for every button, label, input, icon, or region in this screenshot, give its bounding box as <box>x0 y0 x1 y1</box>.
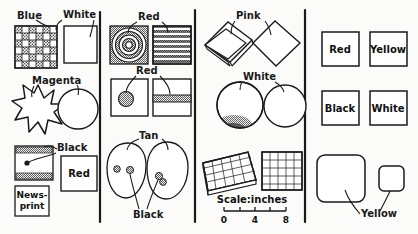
black-bar-target <box>15 146 53 180</box>
label-tan: Tan <box>139 130 158 141</box>
scale-caption: Scale:inches <box>217 194 287 205</box>
red-rings-target <box>110 26 148 64</box>
label-black-seeds: Black <box>133 209 164 220</box>
swatch-yellow: Yellow <box>369 32 407 66</box>
swatch-yellow-label: Yellow <box>369 44 406 55</box>
white-square-target <box>64 26 97 63</box>
label-white-sphere: White <box>243 71 276 82</box>
scale-tick-4: 4 <box>252 215 258 225</box>
figure-svg: Blue White Magenta Black News- print <box>0 0 418 234</box>
swatch-red-label: Red <box>329 44 351 55</box>
red-label: Red <box>68 168 90 179</box>
blue-checkerboard-target <box>15 26 57 68</box>
newsprint-swatch: News- print <box>15 186 49 216</box>
swatch-red: Red <box>322 32 359 66</box>
white-sphere-plain <box>264 85 306 127</box>
red-stripes-target <box>153 26 191 64</box>
red-band-square-target <box>153 79 191 116</box>
yellow-small-tile <box>379 166 404 191</box>
swatch-white: White <box>370 91 407 125</box>
newsprint-label-line2: print <box>20 201 45 211</box>
label-magenta: Magenta <box>32 75 81 86</box>
scale-tick-8: 8 <box>283 215 289 225</box>
grid-plate-flat <box>262 152 302 190</box>
label-pink: Pink <box>236 10 261 21</box>
scale-tick-0: 0 <box>221 215 227 225</box>
red-swatch: Red <box>61 156 97 191</box>
newsprint-label-line1: News- <box>16 190 47 200</box>
swatch-white-label: White <box>371 103 404 114</box>
label-yellow: Yellow <box>360 208 397 219</box>
label-red-rings: Red <box>138 11 160 22</box>
figure-canvas: Blue White Magenta Black News- print <box>0 0 418 234</box>
label-black: Black <box>57 142 88 153</box>
yellow-large-tile <box>317 155 365 202</box>
swatch-black-label: Black <box>325 103 356 114</box>
label-white: White <box>63 9 96 20</box>
label-blue: Blue <box>17 10 42 21</box>
label-red-dot: Red <box>136 65 158 76</box>
swatch-black: Black <box>322 91 359 125</box>
